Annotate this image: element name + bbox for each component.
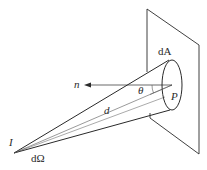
label-solid-angle: dΩ — [31, 152, 45, 164]
label-angle: θ — [138, 84, 144, 96]
normal-arrow — [84, 83, 172, 88]
label-source: I — [8, 136, 14, 148]
label-area: dA — [158, 45, 172, 57]
cone — [14, 60, 172, 153]
angle-arc — [152, 85, 154, 93]
label-point: P — [170, 90, 178, 102]
label-normal: n — [74, 78, 80, 90]
label-distance: d — [104, 104, 110, 116]
plane — [147, 9, 199, 154]
illumination-diagram: I dΩ dA n θ P d — [0, 0, 207, 170]
